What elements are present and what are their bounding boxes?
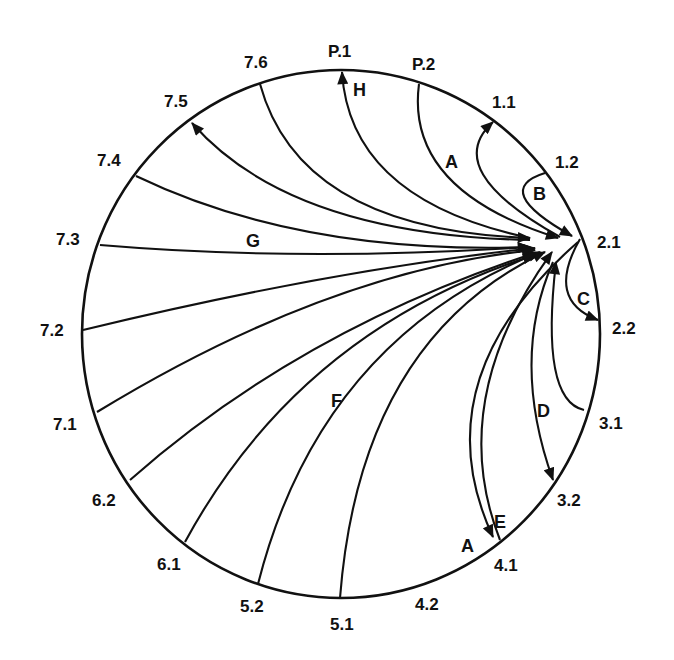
flow-edge-2-1-to-3-2	[532, 262, 554, 480]
node-label-3-1: 3.1	[599, 414, 623, 433]
node-label-1-1: 1.1	[492, 93, 516, 112]
flow-edge-2-1-to-6-2	[130, 253, 535, 480]
node-label-7-5: 7.5	[164, 92, 188, 111]
node-label-1-2: 1.2	[555, 153, 579, 172]
node-label-7-1: 7.1	[53, 415, 77, 434]
node-label-2-2: 2.2	[612, 319, 636, 338]
flow-label-b: B	[533, 184, 546, 204]
flow-label-g: G	[246, 231, 260, 251]
flow-edge-3-1-to-2-1	[552, 262, 584, 410]
flow-edge-7-6-to-2-1	[260, 84, 530, 238]
node-label-4-1: 4.1	[494, 556, 518, 575]
node-labels: P.1P.21.11.22.12.23.13.24.14.25.15.26.16…	[40, 42, 636, 634]
node-label-5-2: 5.2	[240, 597, 264, 616]
node-label-7-3: 7.3	[56, 230, 80, 249]
flow-label-a1: A	[445, 152, 458, 172]
node-label-3-2: 3.2	[557, 491, 581, 510]
node-label-7-6: 7.6	[244, 53, 268, 72]
circular-flow-diagram: P.1P.21.11.22.12.23.13.24.14.25.15.26.16…	[0, 0, 674, 660]
node-label-P-1: P.1	[328, 42, 351, 61]
node-label-6-2: 6.2	[92, 491, 116, 510]
node-label-7-4: 7.4	[97, 151, 121, 170]
flow-edge-2-1-to-6-1	[185, 255, 535, 542]
node-label-6-1: 6.1	[157, 555, 181, 574]
flow-label-a2: A	[461, 536, 474, 556]
flow-label-c: C	[577, 289, 590, 309]
flow-label-h: H	[353, 80, 366, 100]
flow-labels: ABCDEAFGH	[246, 80, 590, 556]
node-label-P-2: P.2	[412, 55, 435, 74]
node-label-2-1: 2.1	[597, 233, 621, 252]
flow-label-d: D	[537, 401, 550, 421]
flow-label-f: F	[331, 391, 342, 411]
flow-edges	[83, 72, 598, 598]
node-label-4-2: 4.2	[415, 595, 439, 614]
flow-label-e: E	[494, 512, 506, 532]
node-label-7-2: 7.2	[40, 321, 64, 340]
flow-edge-1-2-to-2-1	[523, 173, 572, 236]
flow-edge-7-1-to-2-1	[97, 250, 535, 412]
flow-edge-7-3-to-2-1	[100, 245, 530, 254]
node-label-5-1: 5.1	[330, 615, 354, 634]
